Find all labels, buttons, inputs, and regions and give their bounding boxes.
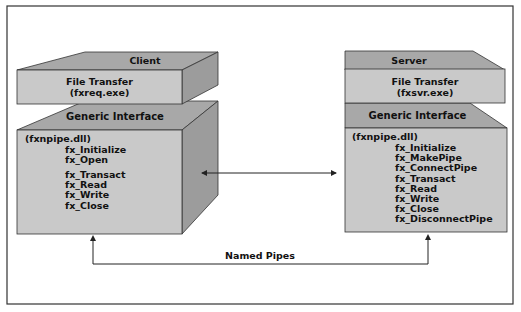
server-dll-name: (fxnpipe.dll) bbox=[352, 132, 418, 142]
client-title: Client bbox=[85, 56, 205, 66]
function-item: fx_Open bbox=[65, 155, 126, 165]
server-function-list: fx_Initialize fx_MakePipe fx_ConnectPipe… bbox=[395, 143, 493, 225]
function-item: fx_Close bbox=[65, 201, 126, 211]
client-app-title: File Transfer bbox=[17, 77, 182, 87]
server-interface-title: Generic Interface bbox=[345, 111, 490, 121]
server-app-title: File Transfer bbox=[345, 77, 505, 87]
client-function-list-1: fx_Initialize fx_Open bbox=[65, 145, 126, 165]
client-dll-name: (fxnpipe.dll) bbox=[25, 134, 91, 144]
server-app-exe: (fxsvr.exe) bbox=[345, 88, 505, 98]
server-title: Server bbox=[345, 56, 473, 66]
diagram-canvas: Client File Transfer (fxreq.exe) Generic… bbox=[0, 0, 521, 312]
named-pipes-label: Named Pipes bbox=[200, 251, 320, 261]
function-item: fx_DisconnectPipe bbox=[395, 214, 493, 224]
client-interface-title: Generic Interface bbox=[40, 112, 190, 122]
client-app-exe: (fxreq.exe) bbox=[17, 88, 182, 98]
client-function-list-2: fx_Transact fx_Read fx_Write fx_Close bbox=[65, 170, 126, 211]
